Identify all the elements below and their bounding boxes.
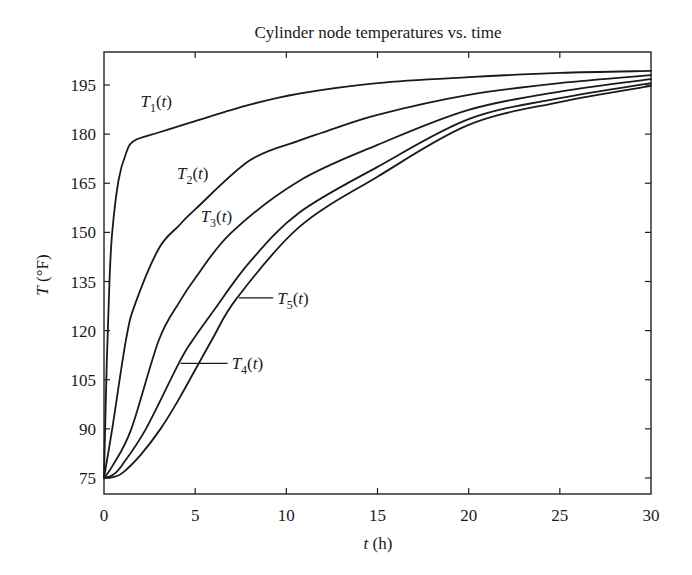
x-tick-label: 5 [191,506,200,525]
x-tick-label: 25 [551,506,568,525]
plot-frame [104,52,651,494]
series-line-3 [104,79,651,478]
x-tick-label: 20 [460,506,477,525]
x-axis-unit: (h) [368,534,392,553]
x-tick-label: 15 [369,506,386,525]
chart-title: Cylinder node temperatures vs. time [255,23,502,42]
y-tick-label: 150 [71,223,97,242]
x-tick-label: 10 [278,506,295,525]
x-tick-label: 0 [100,506,109,525]
series-line-1 [104,71,651,478]
x-tick-label: 30 [643,506,660,525]
series-labels: T1(t)T2(t)T3(t)T4(t)T5(t) [140,92,308,377]
y-tick-label: 75 [79,469,96,488]
series-label-2: T2(t) [177,164,209,187]
x-axis-label: t (h) [364,534,393,553]
y-tick-label: 195 [71,76,97,95]
series-label-4: T4(t) [232,354,264,377]
series-label-5: T5(t) [277,289,309,312]
y-tick-label: 180 [71,125,97,144]
y-axis-unit: (°F) [33,254,52,286]
y-axis-label: T (°F) [33,254,52,295]
series-label-3: T3(t) [201,207,233,230]
series-line-4 [104,83,651,478]
series-line-2 [104,75,651,478]
y-tick-label: 105 [71,371,97,390]
series-label-1: T1(t) [140,92,172,115]
y-tick-label: 120 [71,322,97,341]
temperature-chart: Cylinder node temperatures vs. time 0510… [0,0,692,575]
y-axis-ticks: 7590105120135150165180195 [71,76,652,488]
series-curves [104,71,651,478]
x-axis-ticks: 051015202530 [100,52,660,525]
y-tick-label: 135 [71,273,97,292]
y-tick-label: 90 [79,420,96,439]
y-tick-label: 165 [71,174,97,193]
